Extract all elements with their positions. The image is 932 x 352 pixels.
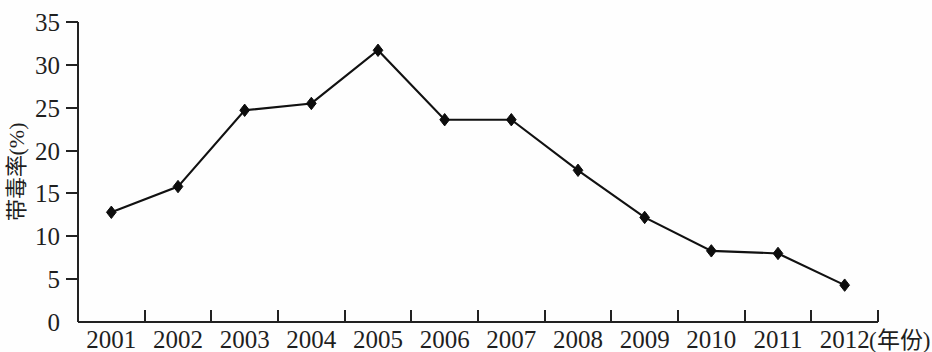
- y-tick-label-20: 20: [35, 138, 60, 165]
- y-tick-label-0: 0: [48, 309, 61, 336]
- y-tick-label-15: 15: [35, 180, 60, 207]
- y-axis-ticks: [66, 22, 78, 279]
- series-line-daiduilv: [111, 50, 844, 285]
- x-tick-label-2008: 2008: [553, 326, 603, 352]
- data-point-marker: [840, 279, 850, 291]
- x-tick-label-2001: 2001: [86, 326, 136, 352]
- x-tick-label-2003: 2003: [220, 326, 270, 352]
- x-tick-label-2006: 2006: [420, 326, 470, 352]
- y-tick-label-5: 5: [48, 266, 61, 293]
- x-axis-ticks: [78, 310, 878, 322]
- y-axis-tick-labels: 35 30 25 20 15 10 5 0: [35, 9, 60, 336]
- line-chart-canvas: 35 30 25 20 15 10 5 0 带毒率(%): [0, 0, 932, 352]
- x-tick-label-2002: 2002: [153, 326, 203, 352]
- data-point-marker: [573, 164, 583, 176]
- x-tick-label-2011: 2011: [753, 326, 802, 352]
- y-tick-label-10: 10: [35, 223, 60, 250]
- x-tick-label-2009: 2009: [620, 326, 670, 352]
- series-markers-group: [106, 44, 849, 291]
- y-tick-label-25: 25: [35, 95, 60, 122]
- data-point-marker: [640, 211, 650, 223]
- data-point-marker: [773, 247, 783, 259]
- x-tick-label-2004: 2004: [286, 326, 337, 352]
- x-tick-label-2005: 2005: [353, 326, 403, 352]
- y-tick-label-35: 35: [35, 9, 60, 36]
- x-tick-label-2007: 2007: [486, 326, 536, 352]
- data-point-marker: [306, 97, 316, 109]
- y-tick-label-30: 30: [35, 52, 60, 79]
- data-point-marker: [506, 114, 516, 126]
- x-axis-unit-label: (年份): [869, 328, 930, 352]
- chart-figure: 35 30 25 20 15 10 5 0 带毒率(%): [0, 0, 932, 352]
- y-axis-title: 带毒率(%): [4, 123, 29, 222]
- x-tick-label-2010: 2010: [686, 326, 736, 352]
- x-tick-label-2012: 2012: [820, 326, 870, 352]
- x-axis-tick-labels: 2001 2002 2003 2004 2005 2006 2007 2008 …: [86, 326, 930, 352]
- data-point-marker: [106, 206, 116, 218]
- data-point-marker: [706, 245, 716, 257]
